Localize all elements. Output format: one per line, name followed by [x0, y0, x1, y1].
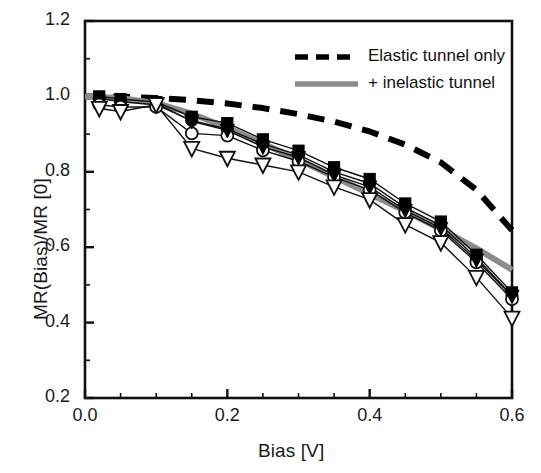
- legend-label-elastic: Elastic tunnel only: [368, 46, 505, 66]
- data-point-open-triangle-down: [291, 165, 306, 180]
- chart-figure: MR(Bias)/MR [0] Bias [V] 0.20.40.60.81.0…: [0, 0, 541, 473]
- series-markers-filled-circles: [93, 92, 518, 301]
- series-curve-inelastic: [85, 96, 512, 269]
- series-line-filled-squares: [99, 96, 512, 292]
- data-series-group: [85, 91, 520, 326]
- series-line-open-triangles-down: [99, 105, 512, 318]
- data-point-open-triangle-down: [113, 105, 128, 120]
- series-line-filled-triangles-down: [156, 103, 512, 296]
- series-markers-filled-triangles-down: [149, 97, 519, 304]
- legend-label-inelastic: + inelastic tunnel: [368, 73, 495, 93]
- series-markers-open-circles: [93, 99, 518, 306]
- legend: [295, 57, 358, 84]
- data-point-open-triangle-down: [398, 218, 413, 233]
- series-markers-open-triangles-down: [92, 98, 520, 326]
- data-point-open-triangle-down: [327, 180, 342, 195]
- plot-area: [0, 0, 541, 473]
- series-line-filled-circles: [99, 98, 512, 295]
- series-line-open-circles: [99, 105, 512, 300]
- data-point-open-triangle-down: [362, 193, 377, 208]
- data-point-open-triangle-down: [505, 312, 520, 327]
- series-markers-filled-squares: [94, 91, 518, 298]
